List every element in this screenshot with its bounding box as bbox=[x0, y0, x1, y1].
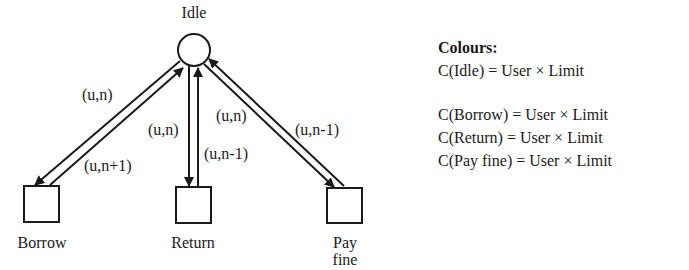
idle-place bbox=[178, 34, 210, 66]
legend-item-borrow: C(Borrow) = User × Limit bbox=[438, 103, 612, 126]
arc-label-borrow-to-idle: (u,n+1) bbox=[84, 157, 132, 175]
arc-label-idle-to-borrow: (u,n) bbox=[82, 86, 113, 104]
colour-legend: Colours: C(Idle) = User × Limit C(Borrow… bbox=[438, 36, 612, 172]
borrow-label: Borrow bbox=[2, 234, 82, 252]
legend-item-return: C(Return) = User × Limit bbox=[438, 126, 612, 149]
arc-label-return-to-idle: (u,n-1) bbox=[204, 145, 248, 163]
legend-item-payfine: C(Pay fine) = User × Limit bbox=[438, 149, 612, 172]
borrow-transition bbox=[24, 186, 59, 222]
arc-label-payfine-to-idle: (u,n-1) bbox=[295, 121, 339, 139]
payfine-label-line2: fine bbox=[320, 251, 370, 269]
idle-label: Idle bbox=[174, 4, 214, 22]
legend-item-idle: C(Idle) = User × Limit bbox=[438, 59, 612, 82]
payfine-transition bbox=[327, 188, 362, 223]
payfine-label-line1: Pay bbox=[320, 234, 370, 252]
return-transition bbox=[176, 187, 211, 223]
return-label: Return bbox=[158, 234, 228, 252]
arc-label-idle-to-return: (u,n) bbox=[148, 121, 179, 139]
legend-spacer bbox=[438, 82, 612, 103]
legend-title: Colours: bbox=[438, 36, 612, 59]
arc-label-idle-to-payfine: (u,n) bbox=[216, 107, 247, 125]
